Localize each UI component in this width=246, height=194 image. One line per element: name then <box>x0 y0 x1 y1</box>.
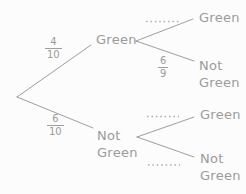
fraction-numerator: 6 <box>47 113 64 126</box>
node-label-text: Green <box>199 74 240 91</box>
fraction-denominator: 10 <box>45 49 62 61</box>
node-label-text: Green <box>199 11 240 25</box>
outcome-label-not-green-green: Green <box>200 108 241 122</box>
probability-fraction-6-10: 6 10 <box>47 113 64 137</box>
node-label-text: Not <box>199 57 240 74</box>
branch-green-to-green <box>136 19 193 41</box>
node-label-text: Not <box>200 150 241 167</box>
probability-fraction-6-9: 6 9 <box>158 55 168 79</box>
node-label-not-green-level1: Not Green <box>97 127 138 161</box>
node-label-green-level1: Green <box>96 33 137 47</box>
node-label-text: Green <box>96 33 137 47</box>
fraction-numerator: 4 <box>45 36 62 49</box>
fraction-denominator: 9 <box>158 68 168 80</box>
fraction-numerator: 6 <box>158 55 168 68</box>
node-label-text: Green <box>200 167 241 184</box>
branch-not-green-to-not-green <box>137 137 194 157</box>
branch-not-green-to-green <box>137 117 194 137</box>
outcome-label-green-not-green: Not Green <box>199 57 240 91</box>
outcome-label-green-green: Green <box>199 11 240 25</box>
probability-tree-diagram: 4 10 6 10 6 9 Green Not Green Green Not … <box>0 0 246 194</box>
node-label-text: Green <box>200 108 241 122</box>
outcome-label-not-green-not-green: Not Green <box>200 150 241 184</box>
fraction-denominator: 10 <box>47 126 64 138</box>
node-label-text: Green <box>97 144 138 161</box>
probability-fraction-4-10: 4 10 <box>45 36 62 60</box>
node-label-text: Not <box>97 127 138 144</box>
